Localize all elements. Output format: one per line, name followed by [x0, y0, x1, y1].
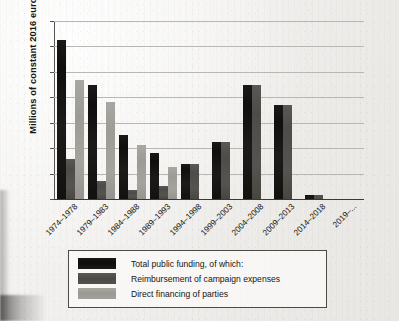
- legend-swatch-total: [78, 258, 116, 269]
- y-axis-tick: [50, 199, 54, 200]
- bar: [274, 105, 282, 199]
- y-axis-tick: [50, 174, 54, 175]
- bar: [137, 145, 145, 199]
- bar: [305, 195, 313, 199]
- bar: [66, 159, 74, 199]
- bar-group: [212, 21, 238, 199]
- legend-swatch-direct: [78, 288, 116, 299]
- bar: [75, 80, 83, 200]
- bar: [252, 85, 260, 199]
- legend-item-label: Reimbursement of campaign expenses: [131, 274, 280, 284]
- y-axis-title: Millions of constant 2016 euros: [28, 0, 38, 143]
- bar-group: [336, 21, 362, 199]
- bar-group: [150, 21, 176, 199]
- legend-item-label: Direct financing of parties: [131, 289, 228, 299]
- plot-area: 350300250200150100500 1974–19781979–1983…: [54, 21, 364, 199]
- bar: [190, 164, 198, 199]
- y-axis-line: [54, 21, 55, 199]
- chart-legend: Total public funding, of which:Reimburse…: [68, 250, 327, 308]
- bar-group: [243, 21, 269, 199]
- bar-group: [119, 21, 145, 199]
- y-axis-tick: [50, 21, 54, 22]
- bar: [168, 167, 176, 199]
- bar: [243, 85, 251, 199]
- bar: [88, 85, 96, 199]
- bar: [150, 153, 158, 199]
- bar: [106, 102, 114, 199]
- bar: [159, 186, 167, 199]
- bar: [212, 142, 220, 199]
- bar: [283, 105, 291, 199]
- bar-group: [57, 21, 83, 199]
- bar: [57, 40, 65, 199]
- y-axis-tick: [50, 148, 54, 149]
- bar: [314, 195, 322, 199]
- y-axis-tick: [50, 97, 54, 98]
- scan-edge-smudge: [0, 295, 46, 321]
- x-axis-line: [52, 199, 364, 200]
- bar: [181, 164, 189, 199]
- y-axis-tick: [50, 72, 54, 73]
- bar-group: [88, 21, 114, 199]
- bar-group: [181, 21, 207, 199]
- bar: [119, 135, 127, 199]
- y-axis-tick: [50, 123, 54, 124]
- bar-group: [274, 21, 300, 199]
- chart-figure: Millions of constant 2016 euros 35030025…: [0, 0, 399, 321]
- bar: [221, 142, 229, 199]
- bar: [128, 190, 136, 199]
- bar: [97, 181, 105, 199]
- bar-group: [305, 21, 331, 199]
- legend-item-label: Total public funding, of which:: [131, 259, 243, 269]
- legend-swatch-reimbursement: [78, 273, 116, 284]
- y-axis-tick: [50, 46, 54, 47]
